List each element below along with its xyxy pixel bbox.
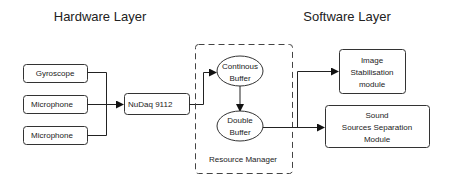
sound-module-line2: Sources Separation xyxy=(342,123,412,132)
sound-separation-node: Sound Sources Separation Module xyxy=(326,106,430,148)
image-stabilisation-node: Image Stabilisation module xyxy=(340,50,406,94)
double-buffer-label-line2: Buffer xyxy=(229,128,251,137)
hardware-layer-title: Hardware Layer xyxy=(54,9,147,24)
microphone-label-1: Microphone xyxy=(31,100,73,109)
microphone-node-2: Microphone xyxy=(24,127,88,145)
sound-module-line1: Sound xyxy=(365,111,388,120)
image-module-line3: module xyxy=(359,80,386,89)
continuous-buffer-node: Continous Buffer xyxy=(217,56,263,86)
gyroscope-label: Gyroscope xyxy=(36,69,75,78)
resource-manager-label: Resource Manager xyxy=(209,155,277,164)
image-module-line1: Image xyxy=(361,56,384,65)
image-module-line2: Stabilisation xyxy=(350,68,393,77)
microphone-label-2: Microphone xyxy=(31,131,73,140)
nudaq-label: NuDaq 9112 xyxy=(128,100,173,109)
double-buffer-node: Double Buffer xyxy=(217,111,263,141)
continuous-buffer-label-line2: Buffer xyxy=(229,74,251,83)
nudaq-to-buffer-arrow xyxy=(190,73,217,105)
double-buffer-label-line1: Double xyxy=(227,116,253,125)
continuous-buffer-label-line1: Continous xyxy=(222,62,258,71)
nudaq-node: NuDaq 9112 xyxy=(125,94,190,115)
system-architecture-diagram: Hardware Layer Software Layer Gyroscope … xyxy=(0,0,449,181)
software-layer-title: Software Layer xyxy=(303,9,391,24)
gyroscope-node: Gyroscope xyxy=(24,65,88,83)
sensor-connectors xyxy=(88,73,124,136)
sound-module-line3: Module xyxy=(364,135,391,144)
microphone-node-1: Microphone xyxy=(24,96,88,114)
